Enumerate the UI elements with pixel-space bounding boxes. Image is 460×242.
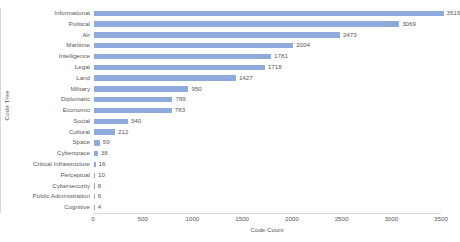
bar-row: Social340 [0,116,455,127]
bar-value-label: 783 [175,105,185,116]
x-tick-label: 1500 [235,215,249,222]
bar-with-value: 16 [94,159,105,170]
bar-value-label: 8 [98,181,101,192]
bar [94,21,399,26]
category-label: Cyberspace [14,148,90,159]
bar-row: Military950 [0,84,455,95]
category-label: Perceptual [14,170,90,181]
category-label: Cybersecurity [14,181,90,192]
x-tick-label: 1000 [186,215,200,222]
category-label: Intelligence [14,51,90,62]
bar-value-label: 10 [98,170,105,181]
bar-row: Intelligence1781 [0,51,455,62]
category-label: Public Administration [14,191,90,202]
bar [94,173,95,178]
bar [94,183,95,188]
bar-row: Space59 [0,137,455,148]
category-label: Military [14,84,90,95]
bar-row: Legal1718 [0,62,455,73]
bar-with-value: 59 [94,137,110,148]
bar-row: Air2473 [0,30,455,41]
bar [94,75,236,80]
bar-row: Land1427 [0,73,455,84]
x-tick-label: 500 [138,215,148,222]
bar-row: Diplomatic789 [0,94,455,105]
bar [94,194,95,199]
bar [94,11,444,16]
bar-value-label: 340 [131,116,141,127]
bar [94,108,172,113]
bar-with-value: 3516 [94,8,460,19]
bar-with-value: 2004 [94,40,310,51]
x-axis-line [93,213,441,214]
category-label: Air [14,30,90,41]
bar [94,86,188,91]
bar-row: Informational3516 [0,8,455,19]
bar-row: Economic783 [0,105,455,116]
bar [94,151,98,156]
category-label: Diplomatic [14,94,90,105]
bar [94,140,100,145]
bar-value-label: 1781 [274,51,288,62]
bar-row: Maritime2004 [0,40,455,51]
bar-row: Critical Infrastructure16 [0,159,455,170]
bar-value-label: 38 [101,148,108,159]
bar-row: Cognitive4 [0,202,455,213]
bar [94,43,293,48]
category-label: Informational [14,8,90,19]
category-label: Maritime [14,40,90,51]
bar-with-value: 4 [94,202,101,213]
category-label: Cultural [14,127,90,138]
bar-with-value: 1718 [94,62,282,73]
bar-value-label: 1427 [239,73,253,84]
bar-value-label: 1718 [268,62,282,73]
bar [94,65,265,70]
bar [94,205,95,210]
category-label: Political [14,19,90,30]
bar [94,54,271,59]
bar-with-value: 6 [94,191,101,202]
bar-value-label: 950 [191,84,201,95]
bar-value-label: 6 [98,191,101,202]
bar-with-value: 783 [94,105,185,116]
bar [94,162,96,167]
bar [94,129,115,134]
category-label: Critical Infrastructure [14,159,90,170]
bar [94,32,340,37]
bar-value-label: 212 [118,127,128,138]
bar-row: Perceptual10 [0,170,455,181]
bar-with-value: 1781 [94,51,288,62]
bar-with-value: 789 [94,94,186,105]
x-tick-label: 2000 [285,215,299,222]
bar-row: Cybersecurity8 [0,181,455,192]
x-axis-title: Code Count [93,226,441,233]
x-tick-label: 2500 [335,215,349,222]
category-label: Social [14,116,90,127]
category-label: Cognitive [14,202,90,213]
bar [94,119,128,124]
bar-row: Public Administration6 [0,191,455,202]
x-tick-label: 3500 [434,215,448,222]
bar [94,97,172,102]
bar-with-value: 3069 [94,19,416,30]
bar-row: Cultural212 [0,127,455,138]
bar-with-value: 8 [94,181,101,192]
bar-value-label: 2004 [296,40,310,51]
bar-value-label: 3069 [402,19,416,30]
bar-row: Cyberspace38 [0,148,455,159]
bar-value-label: 59 [103,137,110,148]
category-label: Economic [14,105,90,116]
bar-with-value: 10 [94,170,105,181]
x-tick-label: 0 [91,215,94,222]
bar-with-value: 212 [94,127,128,138]
bar-with-value: 1427 [94,73,253,84]
bar-with-value: 340 [94,116,141,127]
bar-with-value: 2473 [94,30,357,41]
bar-value-label: 4 [98,202,101,213]
bar-with-value: 38 [94,148,108,159]
bar-value-label: 2473 [343,30,357,41]
bar-value-label: 3516 [447,8,460,19]
category-label: Land [14,73,90,84]
bar-row: Political3069 [0,19,455,30]
